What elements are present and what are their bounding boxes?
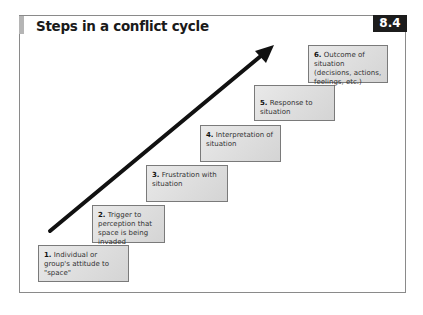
step-number: 4.: [206, 131, 214, 139]
step-text: Individual or group's attitude to "space…: [44, 251, 109, 277]
step-box-4: 4. Interpretation of situation: [200, 125, 281, 162]
step-number: 1.: [44, 251, 52, 259]
step-box-1: 1. Individual or group's attitude to "sp…: [38, 245, 129, 282]
step-box-6: 6. Outcome of situation (decisions, acti…: [308, 45, 388, 83]
step-box-5: 5. Response to situation: [254, 85, 335, 121]
step-box-3: 3. Frustration with situation: [146, 165, 228, 202]
step-number: 5.: [260, 99, 268, 107]
step-text: Frustration with situation: [152, 171, 217, 188]
step-box-2: 2. Trigger to perception that space is b…: [92, 205, 165, 243]
step-text: Outcome of situation (decisions, actions…: [314, 51, 381, 86]
step-number: 6.: [314, 51, 322, 59]
step-text: Trigger to perception that space is bein…: [98, 211, 152, 246]
step-number: 3.: [152, 171, 160, 179]
step-number: 2.: [98, 211, 106, 219]
step-text: Response to situation: [260, 99, 313, 116]
step-text: Interpretation of situation: [206, 131, 273, 148]
